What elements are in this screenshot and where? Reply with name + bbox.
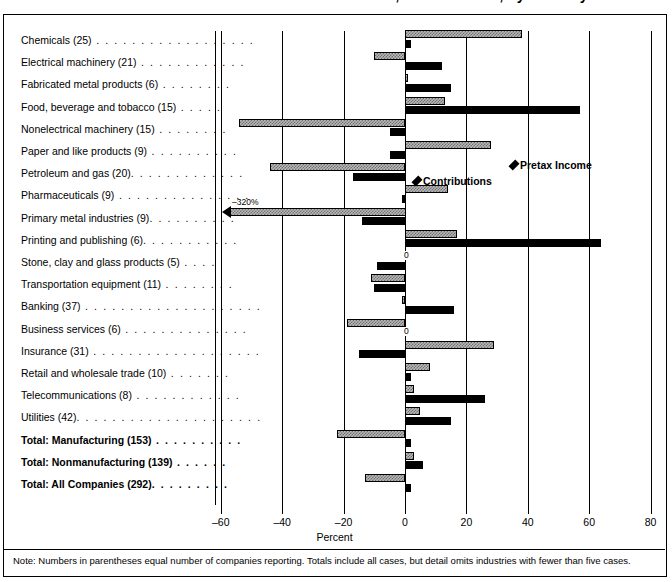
category-label: Total: All Companies (292). . . . . . . … <box>21 479 228 490</box>
bar-pretax-income <box>405 74 408 82</box>
bar-pretax-income <box>337 430 405 438</box>
bar-pretax-income <box>239 119 405 127</box>
category-label-text: Printing and publishing (6) <box>21 234 143 246</box>
bar-contributions <box>405 395 485 403</box>
chart-figure: Charitable Contributions and Pretax Inco… <box>0 0 672 582</box>
tick--60 <box>221 505 222 514</box>
leader-dots: . . . . . . . . . . . . . . . . . . . <box>89 345 261 357</box>
leader-dots: . . . . . . . . <box>155 123 227 135</box>
tick-0 <box>405 505 406 514</box>
legend-pretax-income: Pretax Income <box>510 159 592 171</box>
leader-dots: . . . . . . . . . . . . . . . . . . <box>92 34 255 46</box>
category-label-text: Food, beverage and tobacco (15) <box>21 101 176 113</box>
leader-dots: . . . . . . . . <box>161 278 233 290</box>
category-label-text: Total: Manufacturing (153) <box>21 434 151 446</box>
offscale-value-label: –320% <box>232 197 258 207</box>
leader-dots: . . . . . . . . . . . . <box>132 389 240 401</box>
tick-label-20: 20 <box>446 516 486 528</box>
leader-dots: . . . . . . . . . . . . <box>137 56 245 68</box>
bar-pretax-income <box>365 474 405 482</box>
category-label: Paper and like products (9) . . . . . . … <box>21 146 237 157</box>
leader-dots: . . . . . . . . . . . . . . <box>121 323 247 335</box>
gridline-40 <box>528 31 529 505</box>
bar-contributions <box>377 262 405 270</box>
category-label: Primary metal industries (9). . . . . . … <box>21 213 235 224</box>
bar-pretax-income <box>405 141 491 149</box>
tick-20 <box>466 505 467 514</box>
category-label: Electrical machinery (21) . . . . . . . … <box>21 57 245 68</box>
leader-dots: . . . . . . . . . . . . . . . <box>114 189 250 201</box>
category-label-text: Telecommunications (8) <box>21 389 132 401</box>
leader-dots: . . . . . . . . . . . . . . . . . . . . … <box>76 411 261 423</box>
leader-dots: . . . . . . . . . . <box>147 145 237 157</box>
category-label: Chemicals (25) . . . . . . . . . . . . .… <box>21 35 254 46</box>
leader-dots: . . . . . . . . . . <box>151 434 241 446</box>
category-label: Banking (37) . . . . . . . . . . . . . .… <box>21 301 261 312</box>
category-label-text: Insurance (31) <box>21 345 89 357</box>
bar-contributions <box>390 128 405 136</box>
tick-label-80: 80 <box>631 516 671 528</box>
bar-pretax-income <box>405 341 494 349</box>
category-label: Total: Manufacturing (153) . . . . . . .… <box>21 435 242 446</box>
category-label-text: Chemicals (25) <box>21 34 92 46</box>
leader-dots: . . . . . <box>176 101 221 113</box>
bar-contributions <box>405 417 451 425</box>
category-label-text: Pharmaceuticals (9) <box>21 189 114 201</box>
bar-pretax-income <box>405 363 430 371</box>
tick-label-40: 40 <box>508 516 548 528</box>
bar-contributions <box>405 461 423 469</box>
category-label-text: Utilities (42) <box>21 411 76 423</box>
leader-dots: . . . . . . . . . . . <box>143 234 238 246</box>
bar-pretax-income <box>347 319 405 327</box>
bar-contributions <box>353 173 405 181</box>
tick-label-60: 60 <box>569 516 609 528</box>
category-label: Telecommunications (8) . . . . . . . . .… <box>21 390 240 401</box>
leader-dots: . . . . <box>180 256 216 268</box>
legend-contributions-label: Contributions <box>423 175 492 187</box>
diamond-marker-icon <box>508 159 519 170</box>
bar-contributions <box>390 151 405 159</box>
category-label-text: Total: All Companies (292) <box>21 478 152 490</box>
category-label-text: Retail and wholesale trade (10) <box>21 367 166 379</box>
chart-title: Charitable Contributions and Pretax Inco… <box>0 0 672 3</box>
bar-contributions <box>402 195 405 203</box>
category-label-text: Primary metal industries (9) <box>21 212 149 224</box>
bar-contributions <box>405 84 451 92</box>
x-axis-label: Percent <box>4 531 665 543</box>
gridline--40 <box>282 31 283 505</box>
bar-contributions <box>405 484 411 492</box>
leader-dots: . . . . . . . . . . . . . <box>131 167 244 179</box>
category-label-text: Nonelectrical machinery (15) <box>21 123 155 135</box>
gridline-80 <box>651 31 652 505</box>
bar-contributions <box>359 350 405 358</box>
category-label-text: Banking (37) <box>21 300 81 312</box>
leader-dots: . . . . . . . . . <box>152 478 229 490</box>
gridline-60 <box>589 31 590 505</box>
plot-area: –60–40–20020406080 Chemicals (25) . . . … <box>4 15 665 512</box>
category-label-text: Total: Nonmanufacturing (139) <box>21 456 172 468</box>
bar-pretax-income <box>405 230 457 238</box>
tick-40 <box>528 505 529 514</box>
tick-label--40: –40 <box>262 516 302 528</box>
tick-60 <box>589 505 590 514</box>
bar-pretax-income <box>405 407 420 415</box>
bar-contributions <box>405 306 454 314</box>
chart-note: Note: Numbers in parentheses equal numbe… <box>13 555 658 566</box>
category-label: Insurance (31) . . . . . . . . . . . . .… <box>21 346 260 357</box>
category-label: Utilities (42). . . . . . . . . . . . . … <box>21 412 262 423</box>
bar-pretax-income <box>270 163 405 171</box>
category-label: Printing and publishing (6). . . . . . .… <box>21 235 238 246</box>
bar-pretax-income <box>402 296 405 304</box>
leader-dots: . . . . . . . <box>166 367 229 379</box>
bar-pretax-income <box>405 30 522 38</box>
category-label: Nonelectrical machinery (15) . . . . . .… <box>21 124 227 135</box>
zero-value-label: 0 <box>403 327 410 336</box>
bar-pretax-income <box>371 274 405 282</box>
category-label-text: Stone, clay and glass products (5) <box>21 256 180 268</box>
bar-contributions <box>405 106 580 114</box>
tick-label-0: 0 <box>385 516 425 528</box>
bar-pretax-income <box>374 52 405 60</box>
category-label: Transportation equipment (11) . . . . . … <box>21 279 233 290</box>
gridline-20 <box>466 31 467 505</box>
bar-contributions <box>405 439 411 447</box>
